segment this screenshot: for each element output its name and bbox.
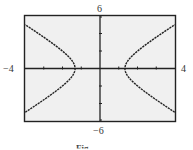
xmin-label: −4 xyxy=(3,64,14,74)
calculator-graph-figure: 6 −6 −4 4 Fig... xyxy=(0,0,193,150)
ymin-label: −6 xyxy=(93,126,104,136)
ymax-label: 6 xyxy=(97,4,102,14)
xmax-label: 4 xyxy=(181,64,186,74)
